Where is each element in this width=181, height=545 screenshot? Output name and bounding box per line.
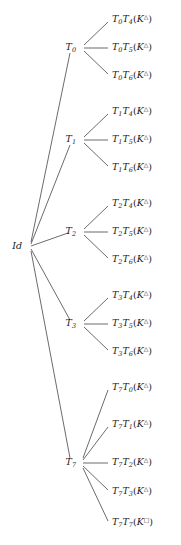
tree-edge-layer [0,0,181,545]
tree-leaf-node-t2t5: T2T5(K△) [112,226,152,237]
tree-leaf-node-t1t4: T1T4(K△) [112,106,152,117]
tree-edge [83,390,108,458]
tree-leaf-node-t0t5: T0T5(K△) [112,42,152,53]
tree-internal-node-t2: T2 [66,226,76,237]
tree-root-node-id: Id [12,241,22,251]
tree-leaf-node-t3t4: T3T4(K△) [112,290,152,301]
tree-leaf-node-t2t6: T2T6(K△) [112,254,152,265]
tree-leaf-node-t7t1: T7T1(K△) [112,419,152,430]
tree-diagram: IdT0T1T2T3T7T0T4(K△)T0T5(K△)T0T6(K△)T1T4… [0,0,181,545]
tree-internal-node-t7: T7 [66,457,76,468]
tree-leaf-node-t3t5: T3T5(K△) [112,318,152,329]
tree-leaf-node-t2t4: T2T4(K△) [112,198,152,209]
tree-leaf-node-t1t5: T1T5(K△) [112,134,152,145]
tree-edge [31,53,70,242]
tree-edge [31,233,68,246]
tree-internal-node-t0: T0 [66,42,76,53]
tree-edge [84,235,108,258]
tree-edge [83,427,108,460]
tree-internal-node-t3: T3 [66,318,76,329]
tree-leaf-node-t3t6: T3T6(K△) [112,346,152,357]
tree-edge [31,251,70,458]
tree-leaf-node-t1t6: T1T6(K△) [112,162,152,173]
tree-leaf-node-t0t4: T0T4(K△) [112,14,152,25]
tree-edge [83,468,108,521]
tree-edge [84,114,108,137]
tree-edge [84,22,108,45]
tree-edge [31,145,70,244]
tree-edge [84,327,108,350]
tree-edge [83,466,108,490]
tree-leaf-node-t7t7: T7T7(K□) [112,517,153,528]
tree-leaf-node-t7t2: T7T2(K△) [112,457,152,468]
tree-edge [31,249,70,320]
tree-leaf-node-t0t6: T0T6(K△) [112,70,152,81]
tree-edge [84,51,108,74]
tree-edge [84,143,108,166]
tree-edge [84,298,108,321]
tree-internal-node-t1: T1 [66,134,76,145]
tree-leaf-node-t7t0: T7T0(K△) [112,382,152,393]
tree-leaf-node-t7t3: T7T3(K△) [112,486,152,497]
tree-edge [84,206,108,229]
